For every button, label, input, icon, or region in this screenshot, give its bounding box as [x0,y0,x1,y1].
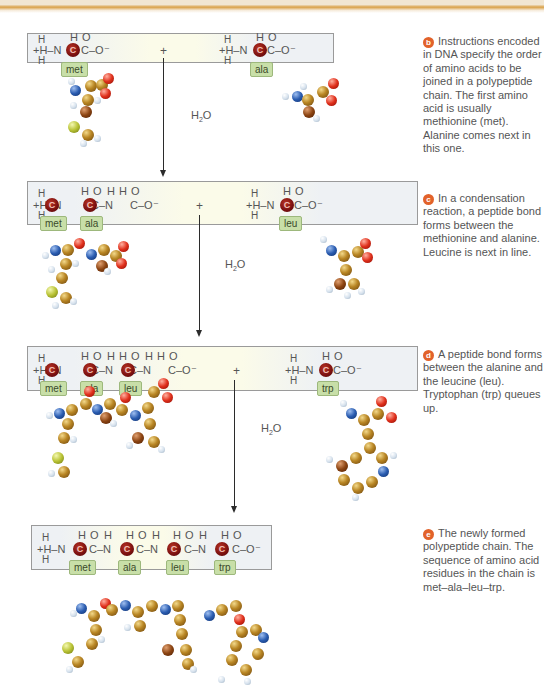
residue-tag-met: met [40,381,67,396]
top-decorative-band [0,0,544,13]
step-badge-e: e [423,529,434,540]
formula-met-ala-leu: H O H H O H H O H +H–N H C–N C–N C–O⁻ [33,351,39,516]
alpha-carbon-met: C [73,542,87,556]
caption-step-d: dA peptide bond forms between the alanin… [423,348,543,415]
alpha-carbon-leu: C [280,198,294,212]
residue-tag-met: met [61,62,88,77]
alpha-carbon-trp: C [319,363,333,377]
alpha-carbon-ala: C [83,363,97,377]
alpha-carbon-leu: C [167,542,181,556]
residue-tag-met: met [40,216,67,231]
plus-operator: + [233,364,240,378]
arrowhead-icon [160,170,166,177]
alpha-carbon-met: C [45,198,59,212]
formula-met-ala: H O H H O H +H–N H C–N C–O⁻ [33,186,39,307]
arrowhead-icon [196,330,202,337]
residue-tag-leu: leu [166,560,189,575]
reaction-arrow-c [199,215,200,332]
water-byproduct: H2O [261,422,281,436]
step-badge-c: c [423,194,434,205]
arrowhead-icon [231,506,237,513]
alpha-carbon-leu: C [121,363,135,377]
alpha-carbon-ala: C [253,43,267,57]
formula-ala: H O H +H–N H C–O⁻ [219,32,225,109]
formula-polypeptide: H O H H O H H O H H O H +H–N H C–N C–N C… [37,530,43,696]
formula-trp: H O H +H–N H C–O⁻ [285,351,291,428]
caption-step-b: bInstructions encoded in DNA specify the… [423,35,543,156]
residue-tag-ala: ala [118,560,141,575]
plus-operator: + [160,44,167,58]
residue-tag-ala: ala [250,62,273,77]
formula-met: H O H +H–N H C–O⁻ [33,32,39,109]
alpha-carbon-met: C [66,43,80,57]
step-badge-b: b [423,37,434,48]
reaction-arrow-b [163,58,164,173]
residue-tag-leu: leu [279,216,302,231]
caption-step-e: eThe newly formed polypeptide chain. The… [423,527,543,594]
reaction-arrow-d [234,380,235,508]
formula-leu: H O H +H–N H C–O⁻ [246,186,252,263]
caption-step-c: cIn a condensation reaction, a peptide b… [423,192,543,259]
residue-tag-ala: ala [80,216,103,231]
step-badge-d: d [423,350,434,361]
alpha-carbon-ala: C [120,542,134,556]
alpha-carbon-ala: C [83,198,97,212]
residue-tag-trp: trp [317,381,339,396]
residue-tag-met: met [69,560,96,575]
residue-tag-trp: trp [214,560,236,575]
alpha-carbon-trp: C [215,542,229,556]
alpha-carbon-met: C [45,363,59,377]
water-byproduct: H2O [225,258,245,272]
plus-operator: + [196,199,203,213]
water-byproduct: H2O [191,109,211,123]
